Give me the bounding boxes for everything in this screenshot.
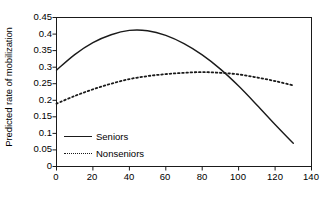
legend-line-dotted-icon <box>64 153 92 157</box>
legend-label: Nonseniors <box>96 146 144 161</box>
chart-figure: Predicted rate of mobilization 0.45 0.4 … <box>0 0 334 214</box>
legend-item-seniors: Seniors <box>64 129 184 146</box>
x-axis-ticks <box>57 167 312 171</box>
y-axis-ticks <box>53 18 57 167</box>
plot-area <box>0 0 334 214</box>
legend-item-nonseniors: Nonseniors <box>64 146 184 163</box>
series-line-seniors <box>57 30 294 143</box>
series-line-nonseniors <box>57 72 294 103</box>
series-layer <box>57 30 294 143</box>
legend-line-solid-icon <box>64 136 92 140</box>
legend-label: Seniors <box>96 129 128 144</box>
chart-legend: Seniors Nonseniors <box>64 129 184 163</box>
